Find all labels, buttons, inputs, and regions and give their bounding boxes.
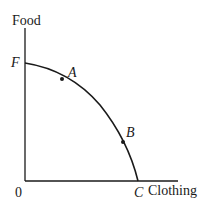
point-a-marker xyxy=(60,77,64,81)
point-f-label: F xyxy=(11,56,20,70)
point-b-label: B xyxy=(126,126,135,140)
point-c-label: C xyxy=(134,186,143,200)
origin-label: 0 xyxy=(15,186,22,200)
ppf-curve xyxy=(25,63,138,181)
x-axis-label: Clothing xyxy=(148,184,197,198)
point-a-label: A xyxy=(68,66,77,80)
point-b-marker xyxy=(121,140,125,144)
ppf-diagram xyxy=(0,0,217,211)
y-axis-label: Food xyxy=(12,14,41,28)
